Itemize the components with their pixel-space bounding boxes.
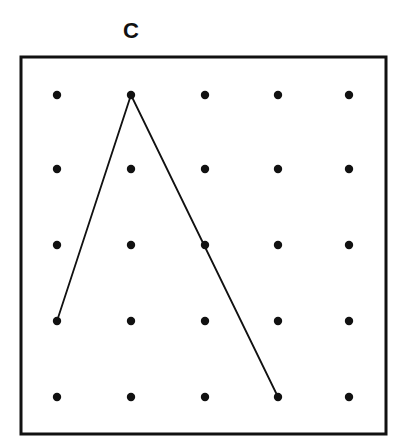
grid-dot — [345, 317, 353, 325]
grid-dot — [345, 393, 353, 401]
grid-dot — [127, 165, 135, 173]
grid-dot — [201, 393, 209, 401]
grid-dot — [274, 241, 282, 249]
grid-dot — [274, 91, 282, 99]
grid-dot — [127, 241, 135, 249]
grid-dot — [274, 165, 282, 173]
grid-dot — [201, 317, 209, 325]
grid-dot — [127, 393, 135, 401]
grid-dot — [53, 165, 61, 173]
grid-dot — [201, 91, 209, 99]
grid-dot — [53, 393, 61, 401]
grid-dot — [53, 91, 61, 99]
grid-dot — [274, 317, 282, 325]
dot-grid — [53, 91, 353, 401]
grid-dot — [345, 241, 353, 249]
grid-dot — [53, 241, 61, 249]
grid-dot — [127, 317, 135, 325]
drawn-path — [57, 95, 278, 397]
grid-dot — [345, 91, 353, 99]
grid-dot — [345, 165, 353, 173]
geoboard-diagram — [0, 0, 407, 446]
grid-dot — [201, 165, 209, 173]
